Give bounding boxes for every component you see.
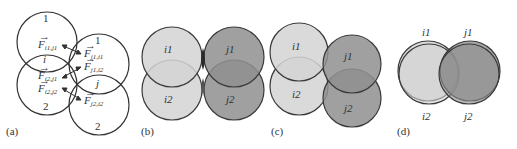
label-j1: j1 bbox=[462, 26, 473, 38]
label-j2: j2 bbox=[224, 93, 235, 105]
svg-text:→: → bbox=[39, 74, 50, 86]
panel-b-label: (b) bbox=[141, 125, 154, 138]
label-i1: i1 bbox=[422, 26, 431, 38]
panel-d-label: (d) bbox=[397, 125, 410, 138]
svg-text:→: → bbox=[39, 61, 50, 73]
figure-canvas: 1 i 2 1 j 2 Fi1,j1 → Fj1,i1 → Fi2,j1 → F… bbox=[0, 0, 517, 149]
label-j1: j1 bbox=[224, 43, 235, 55]
label-i1-top: 1 bbox=[43, 12, 49, 24]
label-j2: j2 bbox=[342, 102, 353, 114]
circle-i1 bbox=[270, 23, 328, 81]
svg-text:→: → bbox=[85, 86, 96, 98]
label-i2: i2 bbox=[422, 110, 431, 122]
label-i2-bottom: 2 bbox=[43, 100, 49, 112]
label-i1: i1 bbox=[164, 43, 173, 55]
panel-c: i1 j1 i2 j2 (c) bbox=[270, 23, 381, 138]
circle-j1 bbox=[204, 27, 264, 87]
force-j2-i2: Fj2,i2 → bbox=[83, 86, 104, 108]
panel-d: i1 j1 i2 j2 (d) bbox=[397, 26, 500, 138]
label-i2: i2 bbox=[164, 93, 173, 105]
label-i2: i2 bbox=[292, 88, 301, 100]
svg-text:→: → bbox=[85, 52, 96, 64]
label-j2-bottom: 2 bbox=[95, 120, 101, 132]
panel-b: i1 j1 i2 j2 (b) bbox=[141, 27, 264, 138]
svg-text:→: → bbox=[39, 30, 50, 42]
label-i1: i1 bbox=[292, 40, 301, 52]
panel-a-label: (a) bbox=[6, 125, 19, 138]
circle-j2 bbox=[439, 44, 499, 104]
force-i1-j1: Fi1,j1 → bbox=[37, 30, 57, 52]
panel-a: 1 i 2 1 j 2 Fi1,j1 → Fj1,i1 → Fi2,j1 → F… bbox=[6, 12, 129, 138]
label-j2: j2 bbox=[462, 110, 473, 122]
circle-i1 bbox=[142, 27, 202, 87]
panel-c-label: (c) bbox=[271, 125, 284, 138]
label-j1: j1 bbox=[342, 50, 353, 62]
svg-text:→: → bbox=[85, 39, 96, 51]
circle-j1 bbox=[323, 35, 381, 93]
